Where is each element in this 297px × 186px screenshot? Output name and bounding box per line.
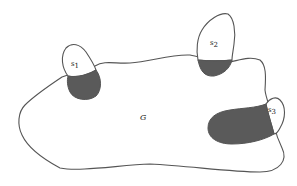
subset-s2-outline: [197, 14, 235, 61]
subset-s3-shaded: [208, 104, 274, 144]
region-g-label: G: [140, 113, 147, 122]
region-diagram: s1 s2 s3 G: [0, 0, 297, 186]
diagram-canvas: s1 s2 s3 G: [0, 0, 297, 186]
subset-s1-outline: [62, 45, 96, 77]
subset-s2-shaded: [198, 60, 232, 76]
